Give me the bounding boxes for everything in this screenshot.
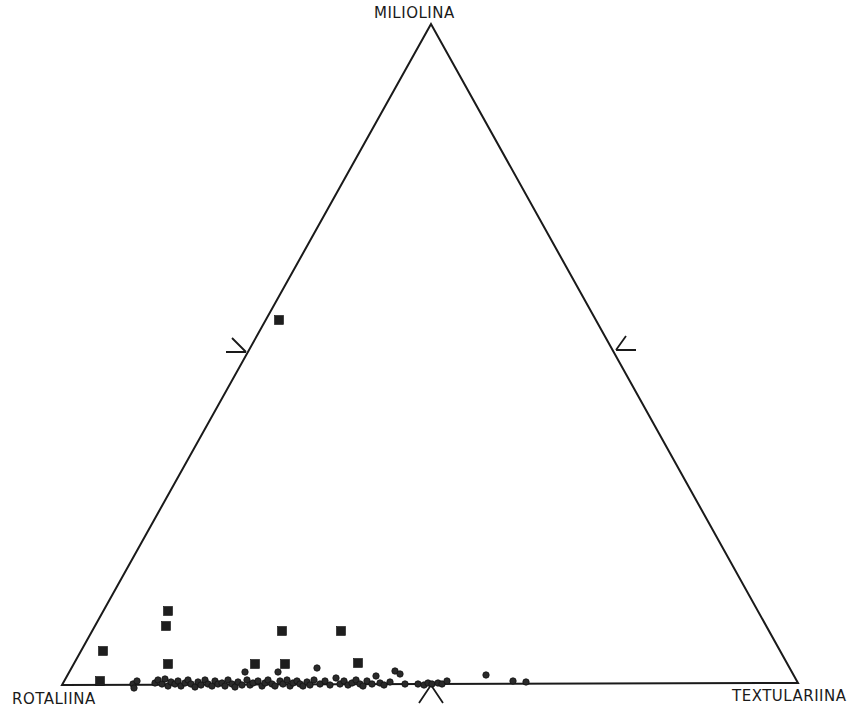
- data-point-circle: [239, 682, 245, 688]
- data-point-circle: [333, 675, 339, 681]
- vertex-label-miliolina: MILIOLINA: [374, 4, 455, 22]
- vertex-label-textulariina: TEXTULARIINA: [732, 687, 847, 705]
- data-point-circle: [402, 681, 408, 687]
- data-point-circle: [284, 677, 290, 683]
- data-point-circle: [369, 681, 375, 687]
- left-edge-mark: [226, 338, 246, 352]
- right-edge-mark: [616, 336, 636, 350]
- data-point-circle: [510, 678, 516, 684]
- data-point-circle: [327, 682, 333, 688]
- square-markers: [96, 316, 363, 686]
- data-point-circle: [131, 685, 137, 691]
- data-point-circle: [429, 681, 435, 687]
- data-point-square: [275, 316, 284, 325]
- data-point-square: [96, 677, 105, 686]
- data-point-square: [162, 622, 171, 631]
- data-point-circle: [311, 677, 317, 683]
- data-point-square: [164, 607, 173, 616]
- data-point-square: [99, 647, 108, 656]
- data-point-circle: [444, 678, 450, 684]
- data-point-circle: [162, 676, 168, 682]
- data-point-square: [251, 660, 260, 669]
- data-point-square: [354, 659, 363, 668]
- data-point-circle: [381, 682, 387, 688]
- data-point-circle: [134, 678, 140, 684]
- data-point-circle: [483, 672, 489, 678]
- ternary-triangle: [62, 24, 798, 685]
- data-point-circle: [415, 681, 421, 687]
- circle-markers: [130, 665, 529, 691]
- data-point-circle: [523, 679, 529, 685]
- triangle-outline: [62, 24, 798, 685]
- data-point-circle: [222, 683, 228, 689]
- data-point-circle: [373, 673, 379, 679]
- data-point-circle: [275, 669, 281, 675]
- data-point-square: [164, 660, 173, 669]
- ternary-plot: [0, 0, 868, 717]
- axis-midpoint-marks: [226, 336, 636, 703]
- data-point-circle: [242, 669, 248, 675]
- data-point-square: [278, 627, 287, 636]
- data-point-square: [281, 660, 290, 669]
- data-point-circle: [397, 671, 403, 677]
- vertex-label-rotaliina: ROTALIINA: [12, 690, 96, 708]
- data-point-square: [337, 627, 346, 636]
- data-point-circle: [272, 683, 278, 689]
- data-point-circle: [314, 665, 320, 671]
- data-point-circle: [387, 679, 393, 685]
